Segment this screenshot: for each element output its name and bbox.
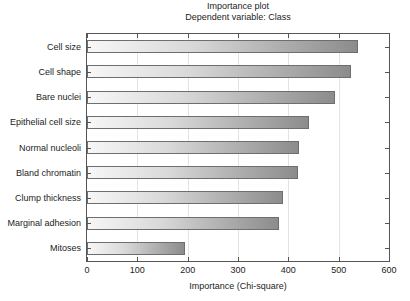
x-axis-tick <box>288 257 289 261</box>
bar <box>87 217 279 230</box>
x-axis-tick <box>188 257 189 261</box>
y-axis-label-bland-chromatin: Bland chromatin <box>16 168 81 178</box>
chart-title: Importance plot <box>86 1 390 12</box>
bar <box>87 166 298 179</box>
y-axis-label-mitoses: Mitoses <box>50 243 81 253</box>
y-axis-tick <box>87 122 91 123</box>
chart-subtitle: Dependent variable: Class <box>86 12 390 23</box>
y-axis-label-bare-nuclei: Bare nuclei <box>36 92 81 102</box>
y-axis-tick <box>87 47 91 48</box>
y-axis-tick <box>385 248 389 249</box>
bar <box>87 242 185 255</box>
plot-inner <box>87 34 389 261</box>
x-axis-label-100: 100 <box>130 265 145 275</box>
x-axis-tick <box>389 257 390 261</box>
y-axis-label-cell-shape: Cell shape <box>38 67 81 77</box>
x-axis-title: Importance (Chi-square) <box>86 281 390 291</box>
x-axis-tick <box>87 257 88 261</box>
x-axis-tick <box>339 257 340 261</box>
bar <box>87 65 351 78</box>
chart-title-block: Importance plot Dependent variable: Clas… <box>86 1 390 23</box>
bar <box>87 191 283 204</box>
y-axis-tick <box>87 198 91 199</box>
x-axis-label-300: 300 <box>230 265 245 275</box>
x-axis-tick <box>238 257 239 261</box>
bar <box>87 116 309 129</box>
x-axis-tick <box>87 34 88 38</box>
y-axis-tick <box>385 198 389 199</box>
y-axis-tick <box>385 97 389 98</box>
y-axis-tick <box>87 223 91 224</box>
x-axis-tick <box>389 34 390 38</box>
bar <box>87 91 335 104</box>
x-axis-label-400: 400 <box>281 265 296 275</box>
x-axis-label-0: 0 <box>84 265 89 275</box>
x-axis-label-200: 200 <box>180 265 195 275</box>
y-axis-tick <box>385 122 389 123</box>
importance-plot-chart: Importance plot Dependent variable: Clas… <box>0 0 410 301</box>
y-axis-tick <box>87 148 91 149</box>
y-axis-label-clump-thickness: Clump thickness <box>15 193 81 203</box>
y-axis-tick <box>87 173 91 174</box>
y-axis-tick <box>87 72 91 73</box>
x-axis-tick <box>339 34 340 38</box>
y-axis-tick <box>385 72 389 73</box>
plot-area <box>86 33 390 262</box>
y-axis-tick <box>87 248 91 249</box>
x-axis-tick <box>137 257 138 261</box>
x-axis-label-500: 500 <box>331 265 346 275</box>
y-axis-label-cell-size: Cell size <box>47 42 81 52</box>
y-axis-tick <box>87 97 91 98</box>
y-axis-tick <box>385 173 389 174</box>
bar <box>87 141 299 154</box>
y-axis-tick <box>385 148 389 149</box>
y-axis-tick <box>385 47 389 48</box>
x-axis-tick <box>288 34 289 38</box>
x-axis-label-600: 600 <box>381 265 396 275</box>
bar <box>87 40 358 53</box>
x-axis-tick <box>238 34 239 38</box>
x-axis-tick <box>137 34 138 38</box>
y-axis-label-marginal-adhesion: Marginal adhesion <box>7 218 81 228</box>
y-axis-label-epithelial-cell-size: Epithelial cell size <box>10 117 81 127</box>
y-axis-label-normal-nucleoli: Normal nucleoli <box>19 143 81 153</box>
y-axis-tick <box>385 223 389 224</box>
x-axis-tick <box>188 34 189 38</box>
